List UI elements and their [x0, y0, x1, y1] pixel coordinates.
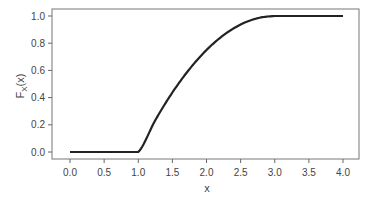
y-label-tail: (x): [14, 74, 26, 87]
y-tick-label: 1.0: [31, 11, 45, 22]
y-tick-label: 0.8: [31, 38, 45, 49]
x-tick-label: 1.0: [131, 167, 145, 178]
y-axis-label: FX(x): [14, 74, 29, 99]
x-axis-ticks: 0.00.51.01.52.02.53.03.54.0: [63, 159, 350, 178]
cdf-line: [70, 16, 343, 152]
y-tick-label: 0.0: [31, 147, 45, 158]
cdf-chart: 0.00.20.40.60.81.0 0.00.51.01.52.02.53.0…: [0, 0, 374, 201]
y-tick-label: 0.2: [31, 119, 45, 130]
x-tick-label: 3.5: [302, 167, 316, 178]
x-tick-label: 4.0: [336, 167, 350, 178]
svg-text:FX(x): FX(x): [14, 74, 29, 99]
x-tick-label: 0.0: [63, 167, 77, 178]
x-axis-label: x: [204, 182, 210, 194]
x-tick-label: 2.5: [234, 167, 248, 178]
x-tick-label: 2.0: [200, 167, 214, 178]
y-tick-label: 0.4: [31, 92, 45, 103]
x-tick-label: 1.5: [165, 167, 179, 178]
y-axis-ticks: 0.00.20.40.60.81.0: [31, 11, 52, 158]
x-tick-label: 3.0: [268, 167, 282, 178]
plot-frame: [52, 9, 359, 159]
y-tick-label: 0.6: [31, 65, 45, 76]
x-tick-label: 0.5: [97, 167, 111, 178]
